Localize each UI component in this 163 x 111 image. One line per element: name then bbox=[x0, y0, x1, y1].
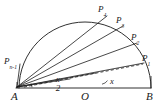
label-Pn-1-sub: n-1 bbox=[10, 64, 17, 70]
label-P2-base: P bbox=[131, 32, 137, 42]
label-P4-sub: 4 bbox=[104, 12, 107, 18]
label-A: A bbox=[11, 91, 18, 102]
label-P4-base: P bbox=[98, 4, 104, 14]
angle-label-x: x bbox=[110, 77, 114, 86]
segment-ray-A-P2 bbox=[17, 43, 137, 87]
label-P4: P4 bbox=[98, 5, 106, 16]
label-O: O bbox=[81, 91, 89, 102]
label-Pn-1: Pn-1 bbox=[4, 57, 17, 68]
label-P2-sub: 2 bbox=[137, 40, 140, 46]
label-Pn-1-base: P bbox=[4, 56, 10, 66]
angle-arc-near-O bbox=[102, 81, 108, 85]
angle-label-half-x: x 2 bbox=[52, 75, 64, 93]
label-P3-sub: 3 bbox=[122, 23, 125, 29]
label-B: B bbox=[146, 91, 153, 102]
label-P1-base: P bbox=[142, 53, 148, 63]
label-P3-base: P bbox=[116, 15, 122, 25]
geometry-figure: P4 P3 P2 P1 Pn-1 A O B x 2 x bbox=[0, 0, 163, 111]
label-P2: P2 bbox=[131, 33, 139, 44]
label-P1-sub: 1 bbox=[148, 61, 151, 67]
label-P1: P1 bbox=[142, 54, 150, 65]
label-P3: P3 bbox=[116, 16, 124, 27]
angle-half-x-denominator: 2 bbox=[52, 84, 64, 93]
